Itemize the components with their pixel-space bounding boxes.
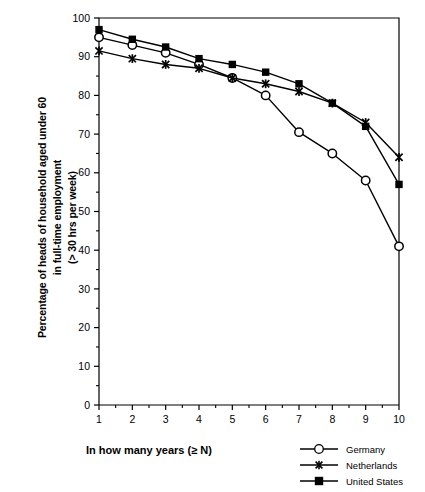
data-point-marker bbox=[261, 91, 269, 99]
data-point-marker bbox=[362, 123, 369, 130]
plot-area: 010203040506070809010012345678910 bbox=[0, 0, 425, 430]
x-axis-tick-label: 4 bbox=[196, 413, 202, 425]
y-axis-tick-label: 50 bbox=[78, 205, 90, 217]
y-axis-tick-label: 100 bbox=[72, 12, 90, 24]
chart-page: Percentage of heads of household aged un… bbox=[0, 0, 425, 492]
x-axis-title-text: In how many years (≥ N) bbox=[86, 444, 212, 456]
data-point-marker bbox=[361, 176, 369, 184]
y-axis-tick-label: 80 bbox=[78, 89, 90, 101]
legend-label: United States bbox=[346, 476, 403, 487]
data-point-marker bbox=[129, 36, 136, 43]
y-axis-tick-label: 40 bbox=[78, 244, 90, 256]
y-axis-tick-label: 60 bbox=[78, 166, 90, 178]
y-axis-tick-label: 70 bbox=[78, 128, 90, 140]
legend-label: Netherlands bbox=[346, 460, 397, 471]
data-point-marker bbox=[328, 149, 336, 157]
data-point-marker bbox=[262, 68, 269, 75]
data-point-marker bbox=[95, 33, 103, 41]
x-axis-tick-label: 3 bbox=[163, 413, 169, 425]
y-axis-tick-label: 0 bbox=[84, 399, 90, 411]
legend-item-netherlands[interactable]: Netherlands bbox=[298, 457, 422, 473]
data-point-marker bbox=[295, 80, 302, 87]
data-point-marker bbox=[229, 61, 236, 68]
y-axis-tick-label: 10 bbox=[78, 360, 90, 372]
y-axis-tick-label: 30 bbox=[78, 283, 90, 295]
x-axis-tick-label: 1 bbox=[96, 413, 102, 425]
legend-label: Germany bbox=[346, 444, 385, 455]
x-axis-tick-label: 2 bbox=[129, 413, 135, 425]
data-point-marker bbox=[95, 26, 102, 33]
data-point-marker bbox=[329, 99, 336, 106]
legend-item-united-states[interactable]: United States bbox=[298, 473, 422, 489]
y-axis-tick-label: 20 bbox=[78, 321, 90, 333]
x-axis-tick-label: 10 bbox=[393, 413, 405, 425]
series-germany bbox=[95, 33, 403, 250]
open-circle-icon bbox=[298, 442, 340, 456]
x-axis-tick-label: 9 bbox=[363, 413, 369, 425]
data-point-marker bbox=[395, 242, 403, 250]
line-chart: 010203040506070809010012345678910 bbox=[0, 0, 425, 430]
x-axis-tick-label: 5 bbox=[229, 413, 235, 425]
data-point-marker bbox=[295, 128, 303, 136]
chart-legend: Germany Netherlands bbox=[298, 441, 422, 489]
data-point-marker bbox=[195, 55, 202, 62]
x-axis-tick-label: 6 bbox=[263, 413, 269, 425]
data-point-marker bbox=[395, 153, 402, 162]
filled-square-icon bbox=[298, 474, 340, 488]
data-point-marker bbox=[162, 43, 169, 50]
x-cross-icon bbox=[298, 458, 340, 472]
series-united-states bbox=[95, 26, 402, 188]
legend-item-germany[interactable]: Germany bbox=[298, 441, 422, 457]
series-netherlands bbox=[95, 46, 402, 161]
x-axis-tick-label: 7 bbox=[296, 413, 302, 425]
x-axis-tick-label: 8 bbox=[329, 413, 335, 425]
y-axis-tick-label: 90 bbox=[78, 50, 90, 62]
data-point-marker bbox=[395, 181, 402, 188]
x-axis-title: In how many years (≥ N) bbox=[86, 444, 212, 456]
